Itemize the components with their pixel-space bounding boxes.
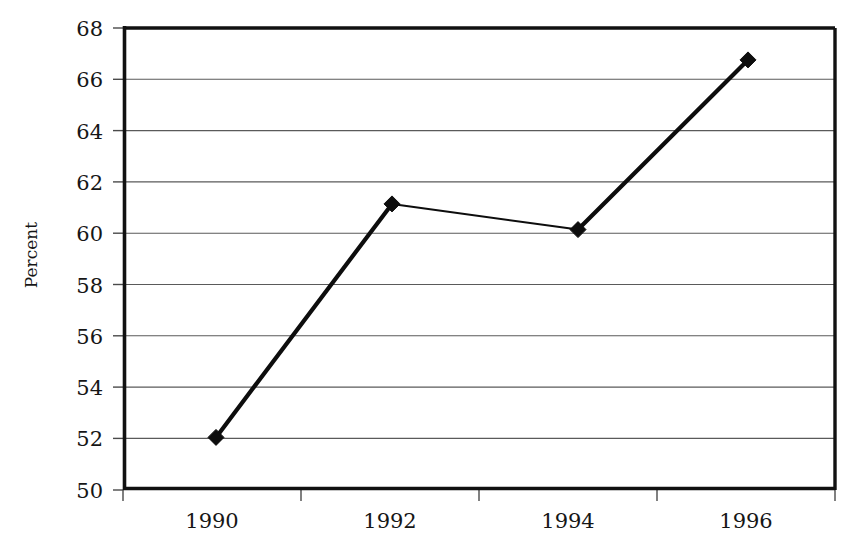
x-tickmarks [123,490,835,501]
x-axis-tick-labels: 1990 1992 1994 1996 [185,509,772,533]
y-tick-label-60: 60 [76,222,103,246]
y-tick-label-56: 56 [76,325,103,349]
x-tick-label-1990: 1990 [185,509,238,533]
chart-figure: 68 66 64 62 60 58 56 54 52 50 1990 1992 … [0,0,868,558]
y-tick-label-68: 68 [76,17,103,41]
y-tick-label-52: 52 [76,427,103,451]
y-tick-label-64: 64 [76,120,103,144]
y-tick-label-66: 66 [76,68,103,92]
x-tick-label-1994: 1994 [541,509,594,533]
x-tick-label-1992: 1992 [363,509,416,533]
y-axis-title: Percent [21,222,41,288]
x-tick-label-1996: 1996 [719,509,772,533]
y-axis-tick-labels: 68 66 64 62 60 58 56 54 52 50 [76,17,103,503]
y-tick-label-50: 50 [76,479,103,503]
y-tick-label-58: 58 [76,274,103,298]
y-tick-label-54: 54 [76,376,103,400]
y-tick-label-62: 62 [76,171,103,195]
y-tickmarks [113,28,123,490]
line-chart-canvas: 68 66 64 62 60 58 56 54 52 50 1990 1992 … [0,0,868,558]
